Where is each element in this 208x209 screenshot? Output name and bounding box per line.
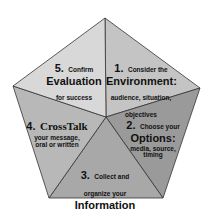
- segment-3-label: 3. Collect and organize your Information: [72, 166, 138, 209]
- segment-4-keyword: CrossTalk: [40, 120, 88, 132]
- segment-2-detail: media, source, timing: [130, 146, 176, 160]
- segment-2-keyword: Options:: [122, 133, 184, 145]
- segment-2-label: 2. Choose your Options: media, source, t…: [122, 116, 184, 161]
- segment-1-keyword: Environment:: [106, 76, 176, 88]
- segment-2-number: 2.: [126, 119, 135, 131]
- segment-5-label: 5. Confirm Evaluation for success: [44, 59, 104, 104]
- segment-2-intro: Choose your: [140, 123, 180, 130]
- segment-1-label: 1. Consider the Environment: audience, s…: [106, 59, 176, 121]
- segment-3-intro: Collect and organize your: [84, 173, 130, 197]
- segment-4-number: 4.: [26, 120, 35, 132]
- segment-1-number: 1.: [114, 62, 123, 74]
- segment-3-number: 3.: [81, 169, 90, 181]
- segment-3-keyword: Information: [72, 200, 138, 209]
- segment-4-detail: your message, oral or written: [33, 135, 81, 149]
- segment-1-intro: Consider the: [128, 66, 168, 73]
- segment-5-detail: for success: [56, 94, 92, 101]
- segment-5-intro: Confirm: [68, 66, 93, 73]
- segment-5-keyword: Evaluation: [44, 76, 104, 88]
- segment-4-label: 4. CrossTalk your message, oral or writt…: [22, 117, 92, 151]
- segment-1-detail: audience, situation, objectives: [111, 94, 172, 118]
- segment-5-number: 5.: [55, 62, 64, 74]
